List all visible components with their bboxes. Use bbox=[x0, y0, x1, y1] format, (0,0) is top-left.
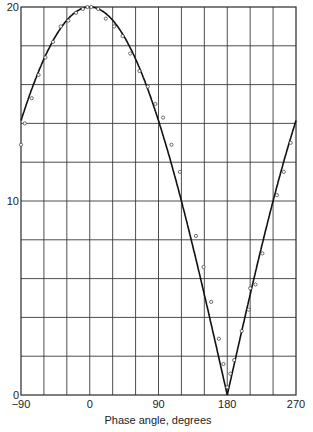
y-tick-label: 20 bbox=[7, 1, 19, 13]
data-point bbox=[282, 170, 285, 173]
x-tick-label: 90 bbox=[152, 398, 164, 410]
data-point bbox=[146, 85, 149, 88]
data-point bbox=[59, 25, 62, 28]
data-point bbox=[67, 19, 70, 22]
y-tick-label: 10 bbox=[7, 195, 19, 207]
data-point bbox=[154, 102, 157, 105]
data-point bbox=[97, 7, 100, 10]
data-point bbox=[19, 143, 22, 146]
x-axis-tick-labels: −90090180270 bbox=[12, 398, 306, 410]
data-point bbox=[86, 5, 89, 8]
y-axis-tick-labels: 01020 bbox=[7, 1, 19, 401]
data-point bbox=[104, 17, 107, 20]
data-point bbox=[138, 69, 141, 72]
data-point bbox=[194, 234, 197, 237]
data-points bbox=[19, 5, 292, 388]
x-tick-label: 0 bbox=[87, 398, 93, 410]
data-point bbox=[30, 97, 33, 100]
x-tick-label: 180 bbox=[218, 398, 236, 410]
data-point bbox=[229, 372, 232, 375]
data-point bbox=[161, 116, 164, 119]
data-point bbox=[247, 308, 250, 311]
data-point bbox=[289, 141, 292, 144]
phase-angle-chart: 01020 −90090180270 Phase angle, degrees bbox=[0, 0, 313, 432]
grid-lines bbox=[21, 7, 296, 395]
data-point bbox=[254, 283, 257, 286]
data-point bbox=[261, 252, 264, 255]
data-point bbox=[249, 287, 252, 290]
data-point bbox=[90, 5, 93, 8]
data-point bbox=[121, 35, 124, 38]
x-tick-label: −90 bbox=[12, 398, 31, 410]
data-point bbox=[74, 11, 77, 14]
x-axis-title: Phase angle, degrees bbox=[104, 414, 212, 426]
data-point bbox=[51, 40, 54, 43]
data-point bbox=[178, 170, 181, 173]
data-point bbox=[240, 329, 243, 332]
data-point bbox=[23, 122, 26, 125]
data-point bbox=[81, 7, 84, 10]
data-point bbox=[170, 143, 173, 146]
data-point bbox=[210, 300, 213, 303]
x-tick-label: 270 bbox=[287, 398, 305, 410]
data-point bbox=[37, 73, 40, 76]
data-point bbox=[44, 56, 47, 59]
data-point bbox=[275, 194, 278, 197]
data-point bbox=[202, 265, 205, 268]
data-point bbox=[233, 358, 236, 361]
data-point bbox=[226, 386, 229, 389]
data-point bbox=[217, 337, 220, 340]
data-point bbox=[113, 25, 116, 28]
data-point bbox=[129, 52, 132, 55]
data-point bbox=[222, 362, 225, 365]
